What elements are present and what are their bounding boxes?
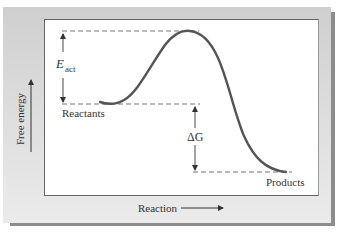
delta-g-label: ΔG — [187, 130, 204, 144]
reaction-curve — [100, 31, 286, 172]
x-axis-label: Reaction — [138, 202, 178, 214]
reactants-label: Reactants — [62, 107, 105, 119]
activation-energy-label: E — [55, 56, 64, 71]
energy-diagram: E act ΔG Reactants Products Free energy … — [0, 0, 337, 232]
activation-energy-subscript: act — [65, 64, 76, 74]
products-label: Products — [266, 176, 305, 188]
y-axis-label: Free energy — [14, 92, 26, 145]
